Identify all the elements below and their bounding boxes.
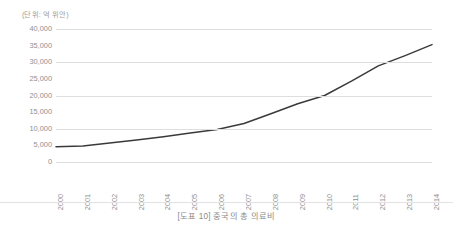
plot-wrapper: 40,00035,00030,00025,00020,00015,00010,0… [0, 0, 453, 200]
y-axis-tick-label: 20,000 [6, 92, 52, 100]
y-axis-tick-label: 40,000 [6, 25, 52, 33]
y-axis-tick-label: 5,000 [6, 141, 52, 149]
chart-caption: [도표 10] 중국의 총 의료비 [0, 209, 453, 221]
x-axis: 2000200120022003200420052006200720082009… [56, 164, 432, 200]
plot-area [56, 29, 432, 162]
chart-figure: (단위: 억 위안) 40,00035,00030,00025,00020,00… [0, 0, 453, 234]
y-axis-tick-label: 25,000 [6, 75, 52, 83]
y-axis-tick-label: 10,000 [6, 125, 52, 133]
gridline-0 [56, 162, 432, 163]
gridline-30000 [56, 62, 432, 63]
gridline-40000 [56, 29, 432, 30]
gridline-10000 [56, 129, 432, 130]
caption-divider [0, 202, 453, 203]
y-axis-tick-label: 35,000 [6, 42, 52, 50]
y-axis: 40,00035,00030,00025,00020,00015,00010,0… [2, 29, 52, 162]
y-axis-tick-label: 15,000 [6, 108, 52, 116]
gridline-20000 [56, 96, 432, 97]
y-axis-tick-label: 30,000 [6, 58, 52, 66]
y-axis-tick-label: 0 [6, 158, 52, 166]
